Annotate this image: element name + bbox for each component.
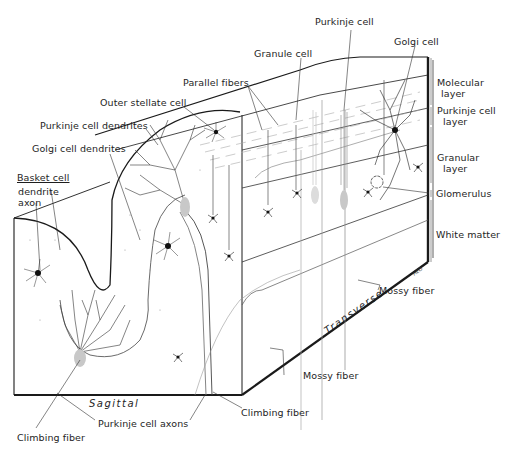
purkinje-soma-upper xyxy=(180,197,190,217)
label-purkinje-cell-axons: Purkinje cell axons xyxy=(98,418,188,429)
purkinje-dendrite-tree-lower xyxy=(60,290,130,352)
purkinje-cell-transverse xyxy=(341,110,347,190)
purkinje-dendrite-tree-upper xyxy=(125,120,205,205)
label-parallel-fibers: Parallel fibers xyxy=(183,77,249,88)
glomerulus-icon xyxy=(371,176,383,188)
diagram-canvas: Purkinje cell Golgi cell Granule cell Pa… xyxy=(0,0,513,456)
label-golgi-cell-dendrites: Golgi cell dendrites xyxy=(32,143,126,154)
block-outline xyxy=(14,57,433,395)
label-mossy-fiber-right: Mossy fiber xyxy=(379,285,434,296)
label-golgi-cell: Golgi cell xyxy=(394,36,439,47)
label-climbing-fiber-left: Climbing fiber xyxy=(17,432,85,443)
label-granular-layer: Granular layer xyxy=(437,152,479,174)
label-purkinje-cell: Purkinje cell xyxy=(315,16,374,27)
label-white-matter: White matter xyxy=(436,229,500,240)
label-molecular-layer: Molecular layer xyxy=(437,77,484,99)
golgi-cell xyxy=(360,80,415,200)
label-basket-cell: Basket cell xyxy=(17,172,70,183)
label-granule-cell: Granule cell xyxy=(254,48,312,59)
label-purkinje-cell-dendrites: Purkinje cell dendrites xyxy=(40,120,148,131)
basket-cell xyxy=(24,232,180,287)
layer-boundaries xyxy=(242,108,428,305)
leader-lines xyxy=(36,30,431,428)
cerebellum-block-illustration xyxy=(0,0,513,456)
purkinje-cell-transverse-ghost xyxy=(313,110,316,185)
label-mossy-fiber-bottom: Mossy fiber xyxy=(303,370,358,381)
label-basket-axon: axon xyxy=(18,197,41,208)
label-outer-stellate-cell: Outer stellate cell xyxy=(100,97,186,108)
label-basket-dendrite: dendrite xyxy=(18,186,59,197)
label-climbing-fiber-center: Climbing fiber xyxy=(241,407,309,418)
label-purkinje-cell-layer: Purkinje cell layer xyxy=(437,105,496,127)
label-glomerulus: Glomerulus xyxy=(436,188,491,199)
label-sagittal-plane: Sagittal xyxy=(89,398,139,409)
purkinje-soma-lower xyxy=(74,349,86,367)
